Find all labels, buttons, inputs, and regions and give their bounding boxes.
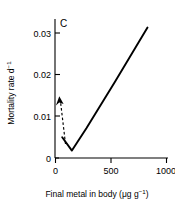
x-tick-label-2: 1000	[156, 166, 175, 176]
y-axis-title-exponent: −1	[5, 61, 12, 69]
y-tick-label-0: 0	[46, 154, 51, 164]
y-tick-label-1: 0.01	[33, 112, 51, 122]
x-axis-tick-labels: 0 500 1000	[53, 166, 175, 176]
arrowhead-icon	[56, 96, 64, 105]
x-tick-label-0: 0	[53, 166, 58, 176]
y-axis-title: Mortality rate d−1	[5, 61, 16, 125]
extrapolation-arrow	[56, 96, 66, 144]
y-axis-title-main: Mortality rate d	[6, 68, 16, 124]
y-tick-label-3: 0.03	[33, 29, 51, 39]
x-axis-title: Final metal in body (μg g−1)	[45, 188, 148, 199]
x-axis-title-tail: )	[146, 189, 149, 199]
y-axis-ticks	[55, 33, 60, 158]
svg-text:Mortality rate d−1: Mortality rate d−1	[5, 61, 16, 125]
chart-svg: 0 0.01 0.02 0.03 0 500 1000 C	[0, 0, 175, 208]
x-tick-label-1: 500	[103, 166, 118, 176]
y-tick-label-2: 0.02	[33, 70, 51, 80]
panel-label: C	[60, 18, 67, 29]
x-axis-title-main: Final metal in body (μg g	[45, 189, 139, 199]
mortality-rate-curve	[62, 28, 147, 151]
chart-figure: 0 0.01 0.02 0.03 0 500 1000 C	[0, 0, 175, 208]
x-axis-ticks	[56, 158, 167, 163]
y-axis-tick-labels: 0 0.01 0.02 0.03	[33, 29, 51, 164]
